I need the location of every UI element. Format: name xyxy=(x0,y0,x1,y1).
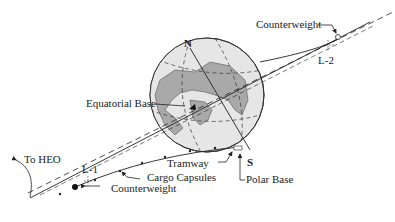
label-north: N xyxy=(184,37,192,49)
polar-base-marker xyxy=(234,146,242,150)
label-south: S xyxy=(247,156,253,168)
counterweight-top xyxy=(336,35,341,40)
label-equatorial-base: Equatorial Base xyxy=(86,97,156,109)
label-l2: L-2 xyxy=(318,54,334,66)
label-to-heo: To HEO xyxy=(24,153,61,165)
counterweight-bottom xyxy=(72,184,78,190)
label-l1: L-1 xyxy=(82,163,98,175)
space-elevator-diagram: Counterweight L-2 N Equatorial Base To H… xyxy=(0,0,395,222)
label-counterweight-bottom: Counterweight xyxy=(111,182,176,194)
label-counterweight-top: Counterweight xyxy=(256,18,321,30)
earth-globe xyxy=(145,30,300,160)
label-polar-base: Polar Base xyxy=(246,173,293,185)
label-tramway: Tramway xyxy=(167,157,209,169)
